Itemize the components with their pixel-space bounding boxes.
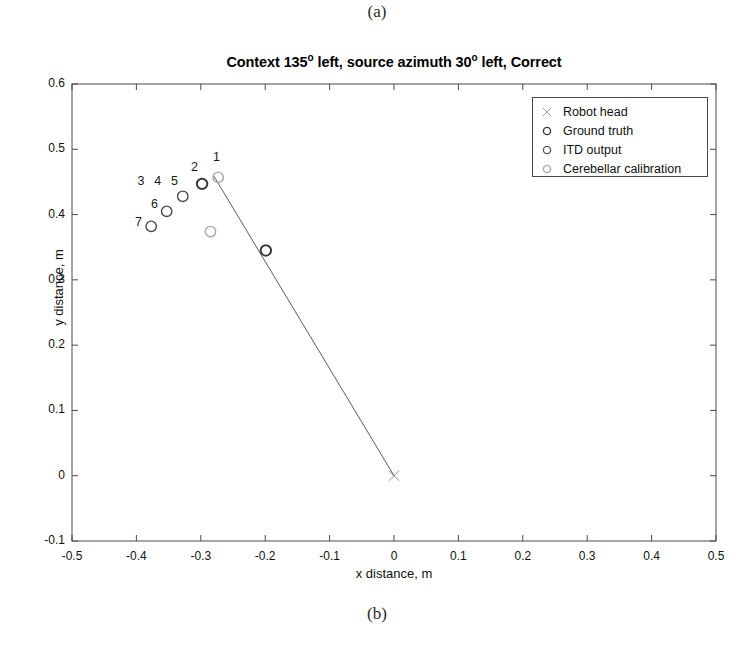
y-tick-label: 0.6 — [25, 76, 65, 90]
x-axis-label: x distance, m — [72, 566, 716, 581]
y-tick-label: 0.1 — [25, 402, 65, 416]
legend-item[interactable]: Cerebellar calibration — [533, 159, 709, 179]
legend-item[interactable]: ITD output — [533, 140, 709, 160]
data-markers — [146, 172, 399, 481]
data-point-marker — [146, 221, 156, 231]
y-tick-label: -0.1 — [25, 533, 65, 547]
trial-label: 6 — [151, 197, 158, 211]
x-tick-label: 0.1 — [436, 549, 480, 563]
trial-label: 2 — [191, 160, 198, 174]
trial-label: 3 — [138, 174, 145, 188]
figure-caption-b: (b) — [0, 604, 754, 624]
x-tick-label: -0.3 — [179, 549, 223, 563]
x-tick-label: -0.5 — [50, 549, 94, 563]
data-point-marker — [161, 206, 171, 216]
figure-panel: (a) Context 135o left, source azimuth 30… — [0, 0, 754, 648]
legend-label: Cerebellar calibration — [563, 162, 681, 176]
legend-label: Robot head — [563, 105, 628, 119]
y-tick-label: 0.4 — [25, 207, 65, 221]
x-tick-label: -0.4 — [114, 549, 158, 563]
trial-label: 5 — [171, 174, 178, 188]
legend-circle-icon — [533, 140, 563, 160]
y-tick-label: 0 — [25, 468, 65, 482]
legend-label: Ground truth — [563, 124, 633, 138]
legend-item[interactable]: Robot head — [533, 102, 709, 122]
trial-label: 4 — [154, 174, 161, 188]
sight-line — [213, 175, 394, 476]
x-tick-label: -0.1 — [308, 549, 352, 563]
y-tick-label: 0.5 — [25, 141, 65, 155]
trial-label: 7 — [135, 215, 142, 229]
data-point-marker — [261, 245, 271, 255]
legend-item[interactable]: Ground truth — [533, 121, 709, 141]
data-point-marker — [197, 179, 207, 189]
y-tick-label: 0.2 — [25, 337, 65, 351]
legend-circle-icon — [533, 121, 563, 141]
robot-head-marker — [389, 471, 399, 481]
trial-label: 1 — [213, 150, 220, 164]
x-tick-label: 0.4 — [630, 549, 674, 563]
x-tick-label: 0 — [372, 549, 416, 563]
x-tick-label: 0.5 — [694, 549, 738, 563]
x-tick-label: -0.2 — [243, 549, 287, 563]
legend-circle-icon — [533, 159, 563, 179]
data-point-marker — [178, 191, 188, 201]
chart-legend: Robot headGround truthITD outputCerebell… — [532, 97, 708, 177]
x-tick-label: 0.3 — [565, 549, 609, 563]
x-tick-label: 0.2 — [501, 549, 545, 563]
y-tick-label: 0.3 — [25, 272, 65, 286]
legend-label: ITD output — [563, 143, 621, 157]
data-point-marker — [205, 226, 215, 236]
legend-x-icon — [533, 102, 563, 122]
